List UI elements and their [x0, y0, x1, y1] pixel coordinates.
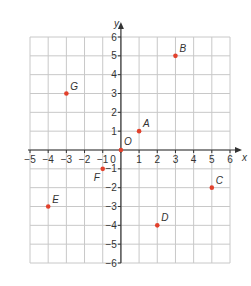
x-tick-label: 6	[227, 154, 233, 165]
point-label: C	[216, 175, 224, 186]
y-tick-label: −6	[106, 258, 118, 269]
point-marker-icon	[155, 223, 160, 228]
x-tick-label: −3	[61, 154, 73, 165]
point-label: F	[94, 172, 101, 183]
point-marker-icon	[210, 185, 215, 190]
y-tick-label: 1	[111, 126, 117, 137]
x-tick-label: 4	[191, 154, 197, 165]
x-axis-label: x	[241, 152, 248, 163]
x-axis-arrow-icon	[235, 147, 242, 153]
point-label: A	[142, 118, 150, 129]
y-tick-label: 6	[111, 32, 117, 43]
point-label: O	[124, 136, 132, 147]
x-tick-label: 2	[154, 154, 160, 165]
point-label: B	[179, 43, 186, 54]
y-tick-label: −2	[106, 182, 118, 193]
point-marker-icon	[119, 148, 124, 153]
x-tick-label: −5	[24, 154, 36, 165]
point-label: G	[70, 81, 78, 92]
y-tick-label: 5	[111, 50, 117, 61]
y-axis-label: y	[113, 18, 120, 29]
point-label: D	[161, 212, 168, 223]
point-marker-icon	[46, 204, 51, 209]
point-marker-icon	[100, 167, 105, 172]
y-tick-label: 3	[111, 88, 117, 99]
x-tick-label: 5	[209, 154, 215, 165]
y-tick-label: −1	[106, 163, 118, 174]
x-tick-labels: −5−4−3−2−10123456	[24, 150, 233, 165]
x-tick-label: 3	[173, 154, 179, 165]
axes: xy	[28, 18, 248, 263]
y-tick-label: −4	[106, 220, 118, 231]
y-tick-label: 2	[111, 107, 117, 118]
point-marker-icon	[173, 54, 178, 59]
data-points: ABCDEFGO	[46, 43, 224, 228]
coordinate-grid-chart: xy −5−4−3−2−10123456 −6−5−4−3−2−1123456 …	[0, 0, 251, 286]
point-marker-icon	[137, 129, 142, 134]
y-tick-label: −5	[106, 239, 118, 250]
y-tick-label: −3	[106, 201, 118, 212]
x-tick-label: −4	[42, 154, 54, 165]
point-marker-icon	[64, 91, 69, 96]
y-tick-label: 4	[111, 69, 117, 80]
x-tick-label: 1	[136, 154, 142, 165]
x-tick-label: −2	[79, 154, 91, 165]
point-label: E	[52, 194, 59, 205]
